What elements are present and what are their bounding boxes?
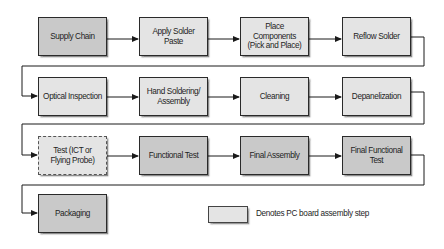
step-reflow-solder: Reflow Solder (342, 17, 411, 56)
step-place-components: Place Components (Pick and Place) (240, 17, 309, 56)
step-label: Depanelization (352, 92, 401, 102)
step-label: Hand Soldering/ Assembly (147, 87, 200, 106)
step-depanelization: Depanelization (342, 77, 411, 116)
step-final-functional-test: Final Functional Test (342, 136, 411, 175)
legend-label: Denotes PC board assembly step (256, 209, 369, 218)
step-label: Reflow Solder (353, 32, 399, 42)
step-label: Test (ICT or Flying Probe) (50, 146, 94, 165)
step-label: Packaging (55, 209, 90, 219)
step-label: Final Functional Test (350, 146, 402, 165)
step-label: Apply Solder Paste (152, 27, 194, 46)
step-cleaning: Cleaning (240, 77, 309, 116)
step-label: Functional Test (149, 151, 199, 161)
legend-swatch (208, 206, 248, 223)
step-test-ict: Test (ICT or Flying Probe) (38, 136, 107, 175)
process-flow-diagram: Supply Chain Apply Solder Paste Place Co… (0, 0, 444, 249)
step-optical-inspection: Optical Inspection (38, 77, 107, 116)
step-label: Supply Chain (50, 32, 95, 42)
step-label: Final Assembly (249, 151, 299, 161)
step-packaging: Packaging (38, 194, 107, 233)
step-label: Optical Inspection (43, 92, 102, 102)
step-label: Cleaning (260, 92, 290, 102)
step-hand-soldering: Hand Soldering/ Assembly (139, 77, 208, 116)
step-label: Place Components (Pick and Place) (247, 22, 301, 51)
step-supply-chain: Supply Chain (38, 17, 107, 56)
step-functional-test: Functional Test (139, 136, 208, 175)
step-apply-solder-paste: Apply Solder Paste (139, 17, 208, 56)
step-final-assembly: Final Assembly (240, 136, 309, 175)
